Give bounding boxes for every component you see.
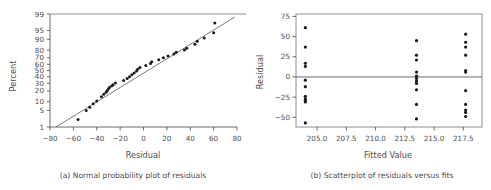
x-tick-label: 210.0: [365, 134, 386, 143]
x-tick-label: 80: [232, 134, 242, 143]
y-axis-tick-labels-percent: 151020304050607080909599: [35, 10, 45, 132]
x-axis-ticks-fitted-value: [317, 127, 463, 131]
data-point: [464, 54, 467, 57]
x-tick-label: 215.0: [424, 134, 445, 143]
x-axis-ticks-residual: [50, 127, 237, 131]
x-tick-label: 205.0: [307, 134, 328, 143]
data-point: [185, 47, 188, 50]
data-point: [304, 26, 307, 29]
data-point: [213, 21, 216, 24]
y-axis-title-percent: Percent: [8, 60, 18, 92]
y-tick-label: 80: [35, 46, 45, 55]
data-point: [77, 118, 80, 121]
data-point: [128, 75, 131, 78]
x-tick-label: −60: [66, 134, 82, 143]
data-point: [464, 41, 467, 44]
y-tick-label: −50: [275, 113, 291, 122]
data-point: [304, 65, 307, 68]
data-point: [157, 58, 160, 61]
x-tick-label: 40: [186, 134, 196, 143]
x-tick-label: −80: [42, 134, 58, 143]
y-tick-label: −25: [275, 93, 290, 102]
normal-reference-line: [56, 17, 235, 127]
data-point: [85, 109, 88, 112]
data-point: [130, 73, 133, 76]
data-point: [415, 103, 418, 106]
y-tick-label: 90: [35, 35, 45, 44]
data-point: [304, 79, 307, 82]
data-point: [92, 102, 95, 105]
x-axis-tick-labels-fitted-value: 205.0207.5210.0212.5215.0217.5: [307, 134, 474, 143]
data-point: [193, 43, 196, 46]
y-tick-label: 50: [281, 32, 291, 41]
data-point: [415, 54, 418, 57]
x-tick-label: −20: [113, 134, 129, 143]
data-point: [464, 111, 467, 114]
y-axis-ticks-residual: [293, 16, 297, 117]
data-point: [464, 71, 467, 74]
data-point: [464, 89, 467, 92]
panel-b-caption: (b) Scatterplot of residuals versus fits: [311, 171, 454, 180]
data-point: [415, 82, 418, 85]
x-axis-tick-labels-residual: −80−60−40−20020406080: [42, 134, 242, 143]
x-tick-label: 212.5: [395, 134, 416, 143]
x-tick-label: −40: [89, 134, 105, 143]
y-tick-label: 5: [39, 106, 44, 115]
data-point: [95, 99, 98, 102]
x-tick-label: 207.5: [336, 134, 357, 143]
data-point: [122, 79, 125, 82]
normal-probability-plot-svg: 151020304050607080909599 −80−60−40−20020…: [0, 0, 246, 190]
data-point: [172, 53, 175, 56]
data-point: [415, 58, 418, 61]
data-point: [304, 62, 307, 65]
data-point: [304, 85, 307, 88]
x-tick-label: 0: [141, 134, 146, 143]
data-point: [150, 60, 153, 63]
y-tick-label: 0: [285, 72, 290, 81]
y-axis-title-residual: Residual: [255, 55, 265, 90]
data-point: [175, 51, 178, 54]
data-point: [304, 45, 307, 48]
y-tick-label: 75: [281, 12, 290, 21]
residuals-versus-fits-svg: −50−250255075 205.0207.5210.0212.5215.02…: [246, 0, 491, 190]
data-point: [304, 121, 307, 124]
data-point: [138, 66, 141, 69]
x-tick-label: 20: [162, 134, 172, 143]
data-point: [464, 33, 467, 36]
data-point: [114, 81, 117, 84]
y-axis-tick-labels-residual: −50−250255075: [275, 12, 291, 122]
data-point: [144, 64, 147, 67]
data-point: [212, 31, 215, 34]
data-point: [102, 93, 105, 96]
plot-frame-border: [296, 14, 482, 127]
data-point: [415, 117, 418, 120]
y-tick-label: 10: [35, 97, 45, 106]
panel-normal-probability-plot: 151020304050607080909599 −80−60−40−20020…: [0, 0, 246, 190]
x-tick-label: 60: [209, 134, 219, 143]
y-tick-label: 20: [35, 86, 45, 95]
x-axis-title-residual: Residual: [126, 150, 161, 160]
data-point: [464, 103, 467, 106]
data-point: [196, 40, 199, 43]
panel-residuals-versus-fits: −50−250255075 205.0207.5210.0212.5215.02…: [246, 0, 491, 190]
data-point: [464, 45, 467, 48]
data-points-residual-scatter: [304, 26, 467, 124]
y-tick-label: 1: [39, 123, 44, 132]
data-point: [203, 36, 206, 39]
x-tick-label: 217.5: [453, 134, 474, 143]
data-point: [88, 106, 91, 109]
data-point: [464, 115, 467, 118]
data-point: [136, 68, 139, 71]
residual-diagnostics-figure: 151020304050607080909599 −80−60−40−20020…: [0, 0, 491, 190]
data-point: [133, 71, 136, 74]
data-point: [415, 39, 418, 42]
y-axis-ticks-percent: [47, 14, 50, 127]
data-point: [415, 88, 418, 91]
data-point: [126, 77, 129, 80]
y-tick-label: 70: [35, 53, 45, 62]
y-tick-label: 95: [35, 26, 44, 35]
data-point: [304, 100, 307, 103]
data-point: [162, 56, 165, 59]
panel-a-caption: (a) Normal probability plot of residuals: [60, 171, 207, 180]
y-tick-label: 25: [281, 52, 290, 61]
